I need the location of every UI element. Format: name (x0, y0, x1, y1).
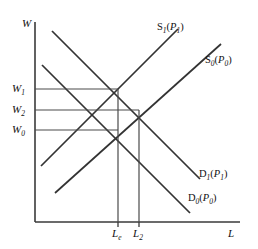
x-tick-label-le: Le (112, 228, 121, 239)
y-tick-label-w1: W1 (12, 83, 25, 94)
y-tick-label-w0: W0 (12, 124, 25, 135)
x-axis-label: L (228, 228, 234, 239)
figure-canvas (0, 0, 258, 249)
curve-label-d0: D0(P0) (188, 193, 217, 204)
y-axis-label: W (22, 18, 31, 29)
curve-label-d1: D1(P1) (199, 169, 228, 180)
x-tick-label-l2: L2 (133, 228, 143, 239)
curve-label-s1: S1(P1) (157, 22, 184, 33)
demand-curve-d1 (52, 31, 200, 179)
supply-curve-s0 (55, 44, 221, 193)
y-tick-label-w2: W2 (12, 104, 25, 115)
supply-curve-s1 (41, 29, 178, 166)
curve-label-s0: S0(P0) (205, 55, 232, 66)
supply-demand-figure: W L W1 W2 W0 Le L2 S1(P1) S0(P0) D1(P1) … (0, 0, 258, 249)
